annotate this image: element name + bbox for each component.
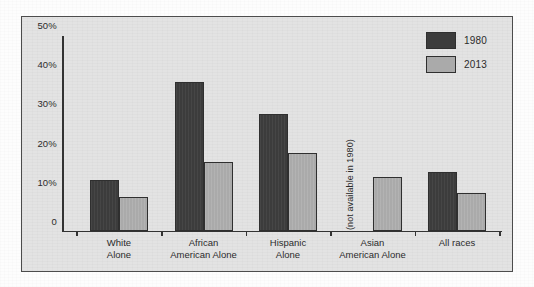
- y-tick-label-30%: 30%: [37, 98, 57, 109]
- annotation-not-available-1980: (not available in 1980): [345, 139, 355, 230]
- x-tick-mark: [499, 232, 501, 236]
- group-label-african-american-alone: AfricanAmerican Alone: [170, 237, 237, 260]
- x-tick-mark: [246, 232, 248, 236]
- chart-figure: 1980 2013 010%20%30%40%50% WhiteAloneAfr…: [21, 16, 513, 272]
- bar-asian-american-alone-2013: [373, 177, 402, 231]
- y-tick-label-0: 0: [52, 216, 57, 227]
- y-tick-label-40%: 40%: [37, 59, 57, 70]
- x-tick-mark: [415, 232, 417, 236]
- group-label-line: White: [107, 237, 131, 249]
- y-tick-label-50%: 50%: [37, 20, 57, 31]
- bar-white-alone-2013: [119, 197, 148, 231]
- group-label-hispanic-alone: HispanicAlone: [270, 237, 306, 260]
- x-tick-mark: [161, 232, 163, 236]
- group-label-asian-american-alone: AsianAmerican Alone: [339, 237, 406, 260]
- x-tick-mark: [76, 232, 78, 236]
- plot-area: 010%20%30%40%50% WhiteAloneAfricanAmeric…: [62, 36, 502, 232]
- bar-hispanic-alone-2013: [288, 153, 317, 231]
- group-label-line: American Alone: [170, 249, 237, 261]
- group-label-line: American Alone: [339, 249, 406, 261]
- y-axis-line: [62, 36, 64, 232]
- bar-all-races-1980: [428, 172, 457, 231]
- x-axis-line: [62, 231, 502, 233]
- group-label-line: African: [170, 237, 237, 249]
- group-label-all-races: All races: [439, 237, 475, 249]
- group-label-line: Alone: [107, 249, 131, 261]
- group-label-line: Alone: [270, 249, 306, 261]
- y-tick-label-10%: 10%: [37, 176, 57, 187]
- page-canvas: 1980 2013 010%20%30%40%50% WhiteAloneAfr…: [0, 0, 534, 287]
- group-label-line: All races: [439, 237, 475, 249]
- bar-african-american-alone-2013: [204, 162, 233, 231]
- bar-african-american-alone-1980: [175, 82, 204, 231]
- y-tick-label-20%: 20%: [37, 137, 57, 148]
- bar-all-races-2013: [457, 193, 486, 231]
- group-label-white-alone: WhiteAlone: [107, 237, 131, 260]
- group-label-line: Hispanic: [270, 237, 306, 249]
- x-tick-mark: [330, 232, 332, 236]
- group-label-line: Asian: [339, 237, 406, 249]
- bar-white-alone-1980: [90, 180, 119, 231]
- bar-hispanic-alone-1980: [259, 114, 288, 230]
